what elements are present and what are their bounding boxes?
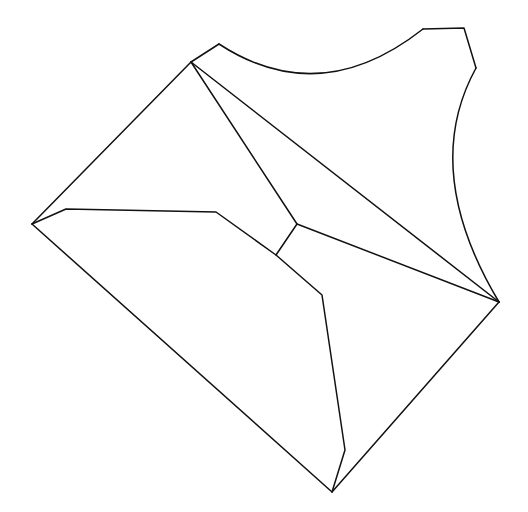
inner-flap bbox=[32, 209, 345, 492]
top-right-notch bbox=[423, 28, 476, 68]
outer-lower-edges bbox=[32, 224, 499, 492]
right-arc bbox=[453, 68, 499, 302]
short-connector-fold bbox=[276, 224, 297, 255]
top-arc bbox=[219, 29, 423, 74]
folded-paper-diagram bbox=[0, 0, 528, 512]
outer-left-upper-edge bbox=[32, 44, 219, 224]
diagonal-fold-main bbox=[191, 62, 499, 302]
